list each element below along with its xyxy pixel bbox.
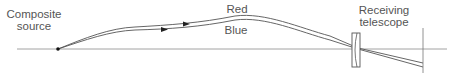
source-label-line2: source [0,20,68,32]
arrow-icon [161,27,168,32]
telescope-label: Receiving telescope [348,4,420,28]
source-point [56,47,60,51]
source-label: Composite source [0,8,68,32]
source-label-line1: Composite [0,8,68,20]
blue-label: Blue [216,24,256,36]
lens [352,33,360,67]
telescope-label-line1: Receiving [348,4,420,16]
arrow-icon [183,22,190,27]
telescope-label-line2: telescope [348,16,420,28]
red-label: Red [219,3,255,15]
refraction-diagram: Composite source Red Blue Receiving tele… [0,0,460,73]
